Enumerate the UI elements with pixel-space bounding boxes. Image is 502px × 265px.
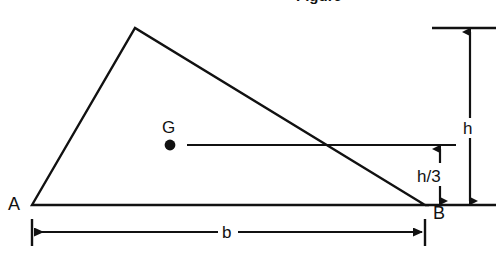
- vertex-label-b: B: [433, 203, 445, 223]
- centroid-label-g: G: [162, 118, 175, 137]
- geometry-diagram: Figure: [0, 0, 502, 265]
- height-dimension-label: h: [463, 119, 472, 138]
- base-dimension-label: b: [222, 223, 231, 242]
- triangle-shape: [32, 28, 425, 205]
- centroid-height-dimension-label: h/3: [417, 167, 441, 186]
- centroid-dot: [165, 140, 176, 151]
- vertex-label-a: A: [8, 194, 20, 214]
- diagram-canvas: A B G b h h/3: [0, 0, 502, 265]
